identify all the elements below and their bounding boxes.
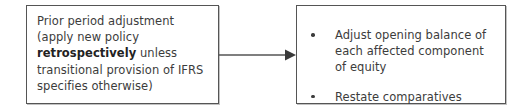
list-item-label: Adjust opening balance of each affected … [335,28,486,74]
list-item-label: Restate comparatives [335,90,462,104]
bullet-dot-icon [311,33,315,37]
list-item: Adjust opening balance of each affected … [307,27,497,76]
bullet-dot-icon [311,95,315,99]
node-required-actions: Adjust opening balance of each affected … [296,5,506,104]
text-emphasis-retrospectively: retrospectively [37,46,136,60]
text-segment-before-emphasis: Prior period adjustment (apply new polic… [37,14,174,44]
flowchart-diagram: Prior period adjustment (apply new polic… [0,0,524,110]
required-actions-list: Adjust opening balance of each affected … [307,27,497,105]
list-item: Restate comparatives [307,89,497,105]
arrowhead-icon [285,50,296,61]
node-prior-period-adjustment: Prior period adjustment (apply new polic… [26,5,219,104]
node-prior-period-adjustment-text: Prior period adjustment (apply new polic… [37,13,212,94]
